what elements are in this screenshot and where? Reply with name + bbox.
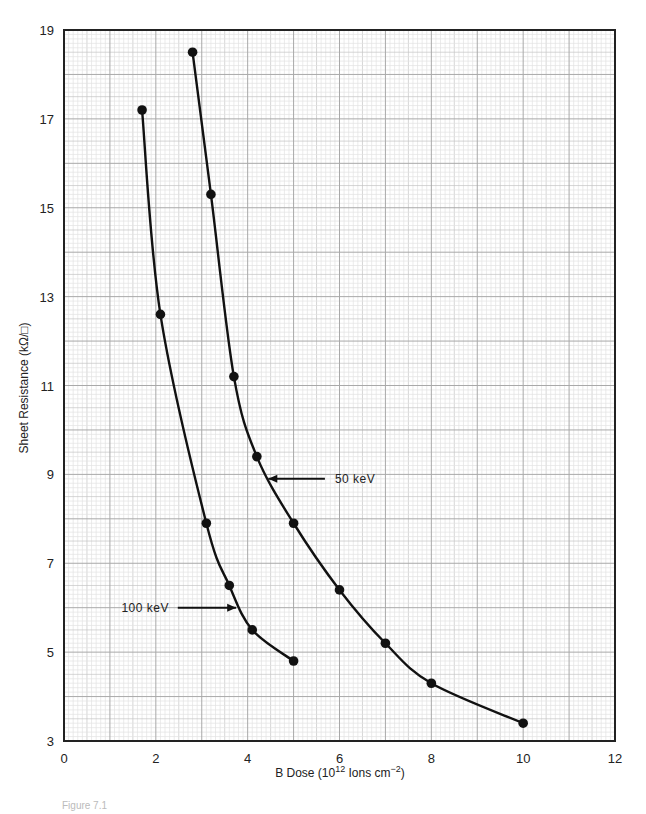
y-tick-label: 13 [40, 290, 54, 305]
data-series [137, 47, 528, 728]
x-tick-label: 10 [516, 751, 530, 766]
x-tick-label: 8 [428, 751, 435, 766]
y-tick-label: 5 [47, 645, 54, 660]
data-point-marker [202, 518, 212, 528]
data-point-marker [335, 585, 345, 595]
x-axis-label: B Dose (1012 Ions cm−2) [275, 764, 405, 780]
data-point-marker [188, 47, 198, 57]
data-point-marker [427, 678, 437, 688]
data-point-marker [137, 105, 147, 115]
x-tick-label: 12 [608, 751, 622, 766]
x-tick-label: 2 [152, 751, 159, 766]
data-point-marker [289, 656, 299, 666]
y-tick-label: 9 [47, 467, 54, 482]
y-tick-label: 7 [47, 556, 54, 571]
data-point-marker [247, 625, 257, 635]
data-point-marker [381, 638, 391, 648]
data-point-marker [206, 190, 216, 200]
chart: 35791113151719 024681012 100 keV50 keV S… [0, 0, 646, 814]
data-point-marker [225, 581, 235, 591]
data-point-marker [289, 518, 299, 528]
data-point-marker [156, 310, 166, 320]
arrow-head-icon [227, 604, 236, 612]
x-tick-label: 0 [60, 751, 67, 766]
y-tick-label: 17 [40, 112, 54, 127]
figure-caption: Figure 7.1 [62, 800, 107, 811]
y-tick-label: 15 [40, 201, 54, 216]
x-tick-label: 4 [244, 751, 251, 766]
y-axis-label: Sheet Resistance (kΩ/□) [17, 323, 31, 454]
data-point-marker [229, 372, 239, 382]
annotation-label: 100 keV [121, 601, 169, 615]
data-point-marker [518, 718, 528, 728]
annotation-label: 50 keV [335, 472, 375, 486]
y-tick-labels: 35791113151719 [40, 23, 54, 749]
y-tick-label: 19 [40, 23, 54, 38]
y-tick-label: 11 [41, 379, 55, 394]
data-point-marker [252, 452, 262, 462]
y-tick-label: 3 [47, 734, 54, 749]
